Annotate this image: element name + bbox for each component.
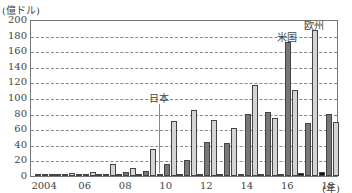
bar-eu-2006 xyxy=(90,172,96,176)
bar-us-2015 xyxy=(265,112,271,176)
bar-eu-2005 xyxy=(69,173,75,176)
bar-us-2016 xyxy=(285,42,291,176)
y-tick-label: 180 xyxy=(0,31,27,41)
annotation-us: 米国 xyxy=(277,29,297,44)
bar-us-2011 xyxy=(184,160,190,176)
bar-jp-2005 xyxy=(55,174,61,176)
bar-us-2010 xyxy=(164,164,170,176)
bar-jp-2014 xyxy=(238,174,244,176)
y-tick-label: 80 xyxy=(0,109,27,119)
y-tick-label: 140 xyxy=(0,62,27,72)
y-tick-label: 0 xyxy=(0,171,27,181)
bar-jp-2011 xyxy=(177,174,183,176)
bar-eu-2014 xyxy=(252,85,258,176)
x-axis-label: (年) xyxy=(322,180,340,193)
x-tick-label: 12 xyxy=(200,180,213,191)
x-tick-label: 14 xyxy=(240,180,253,191)
bar-jp-2007 xyxy=(96,174,102,176)
y-tick-label: 200 xyxy=(0,15,27,25)
x-tick-label: 08 xyxy=(119,180,132,191)
bar-eu-2018 xyxy=(333,122,339,176)
bar-jp-2008 xyxy=(116,174,122,176)
bar-eu-2008 xyxy=(130,168,136,176)
y-tick-label: 160 xyxy=(0,46,27,56)
bar-us-2018 xyxy=(326,114,332,176)
bar-eu-2013 xyxy=(231,128,237,176)
annotation-leader-line xyxy=(159,104,160,173)
bar-us-2013 xyxy=(224,143,230,176)
y-tick-label: 100 xyxy=(0,93,27,103)
bar-eu-2004 xyxy=(49,174,55,176)
bar-us-2007 xyxy=(103,174,109,176)
x-tick-label: 16 xyxy=(281,180,294,191)
bar-jp-2018 xyxy=(319,172,325,176)
bar-eu-2015 xyxy=(272,118,278,176)
bar-jp-2006 xyxy=(76,174,82,176)
bar-jp-2013 xyxy=(217,174,223,176)
bar-jp-2004 xyxy=(35,174,41,176)
bar-eu-2009 xyxy=(150,149,156,176)
bar-us-2005 xyxy=(62,174,68,176)
bar-jp-2010 xyxy=(157,174,163,176)
annotation-eu: 欧州 xyxy=(304,17,324,32)
bar-jp-2016 xyxy=(278,174,284,176)
bar-eu-2012 xyxy=(211,120,217,176)
y-tick-label: 60 xyxy=(0,124,27,134)
y-tick-label: 20 xyxy=(0,155,27,165)
bar-us-2012 xyxy=(204,142,210,176)
bar-eu-2016 xyxy=(292,90,298,176)
bar-jp-2015 xyxy=(258,174,264,176)
x-tick-label: 2004 xyxy=(31,180,56,191)
bar-eu-2007 xyxy=(110,164,116,176)
x-tick-label: 06 xyxy=(78,180,91,191)
y-tick-label: 40 xyxy=(0,140,27,150)
bar-eu-2011 xyxy=(191,110,197,176)
bar-jp-2009 xyxy=(136,174,142,176)
bar-eu-2017 xyxy=(312,30,318,176)
bar-jp-2012 xyxy=(197,174,203,176)
bar-eu-2010 xyxy=(171,121,177,176)
bar-us-2006 xyxy=(83,174,89,176)
annotation-jp: 日本 xyxy=(149,90,169,105)
bar-us-2017 xyxy=(305,123,311,176)
bar-jp-2017 xyxy=(298,173,304,176)
bar-us-2014 xyxy=(245,114,251,176)
x-tick-label: 10 xyxy=(159,180,172,191)
bar-us-2009 xyxy=(143,171,149,176)
bar-us-2004 xyxy=(42,174,48,176)
bar-us-2008 xyxy=(123,172,129,176)
y-tick-label: 120 xyxy=(0,77,27,87)
